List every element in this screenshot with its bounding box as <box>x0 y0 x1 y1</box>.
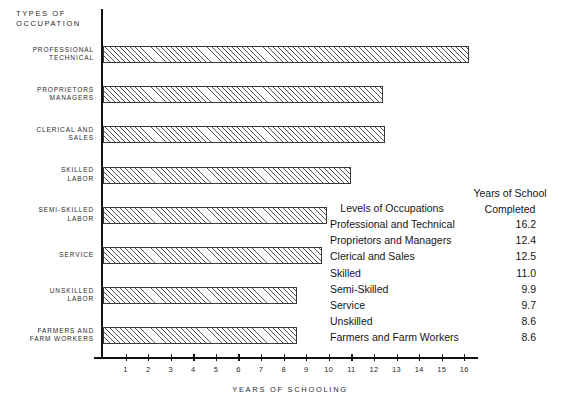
legend-row: Professional and Technical16.2 <box>330 218 568 234</box>
x-tick-label-8: 8 <box>274 365 294 374</box>
category-label-8: FARMERS AND FARM WORKERS <box>0 327 94 344</box>
bar-2 <box>103 86 383 103</box>
legend-table: Years of School Completed Levels of Occu… <box>330 186 568 348</box>
x-axis-line <box>94 357 478 359</box>
legend-years-3: 12.5 <box>500 250 536 262</box>
legend-row: Semi-Skilled9.9 <box>330 283 568 299</box>
x-axis-title: YEARS OF SCHOOLING <box>150 385 430 394</box>
x-tick-label-14: 14 <box>409 365 429 374</box>
x-tick-14 <box>419 354 420 361</box>
x-tick-label-1: 1 <box>116 365 136 374</box>
x-tick-11 <box>351 354 352 361</box>
x-tick-label-11: 11 <box>341 365 361 374</box>
x-tick-12 <box>374 354 375 361</box>
category-label-7: UNSKILLED LABOR <box>0 287 94 304</box>
x-tick-15 <box>442 354 443 361</box>
bar-4 <box>103 167 351 184</box>
legend-years-7: 8.6 <box>500 315 536 327</box>
x-tick-label-4: 4 <box>183 365 203 374</box>
x-tick-label-16: 16 <box>454 365 474 374</box>
category-label-3: CLERICAL AND SALES <box>0 126 94 143</box>
x-tick-3 <box>171 354 172 361</box>
bar-3 <box>103 126 385 143</box>
legend-row: Unskilled8.6 <box>330 315 568 331</box>
legend-level-8: Farmers and Farm Workers <box>330 331 459 343</box>
x-tick-label-2: 2 <box>138 365 158 374</box>
category-label-4: SKILLED LABOR <box>0 166 94 183</box>
legend-years-4: 11.0 <box>500 267 536 279</box>
legend-row-group: Professional and Technical16.2Proprietor… <box>330 218 568 348</box>
legend-table-header: Years of School Completed Levels of Occu… <box>330 186 568 218</box>
x-tick-8 <box>284 354 285 361</box>
legend-level-3: Clerical and Sales <box>330 250 415 262</box>
legend-years-6: 9.7 <box>500 299 536 311</box>
legend-years-2: 12.4 <box>500 234 536 246</box>
x-tick-6 <box>238 354 239 361</box>
x-tick-9 <box>306 354 307 361</box>
x-tick-label-10: 10 <box>319 365 339 374</box>
x-tick-label-6: 6 <box>228 365 248 374</box>
legend-row: Service9.7 <box>330 299 568 315</box>
x-tick-16 <box>464 354 465 361</box>
legend-header-years: Years of School Completed <box>458 186 562 217</box>
x-tick-label-15: 15 <box>432 365 452 374</box>
x-tick-5 <box>216 354 217 361</box>
legend-level-2: Proprietors and Managers <box>330 234 451 246</box>
x-tick-1 <box>126 354 127 361</box>
x-tick-label-12: 12 <box>364 365 384 374</box>
legend-row: Clerical and Sales12.5 <box>330 250 568 266</box>
legend-level-4: Skilled <box>330 267 361 279</box>
bar-6 <box>103 247 322 264</box>
x-tick-4 <box>193 354 194 361</box>
bar-8 <box>103 327 297 344</box>
bar-chart-figure: TYPES OF OCCUPATION PROFESSIONAL TECHNIC… <box>0 0 568 409</box>
bar-7 <box>103 287 297 304</box>
x-tick-10 <box>329 354 330 361</box>
x-tick-2 <box>148 354 149 361</box>
x-tick-label-9: 9 <box>296 365 316 374</box>
legend-years-5: 9.9 <box>500 283 536 295</box>
legend-level-7: Unskilled <box>330 315 373 327</box>
legend-level-5: Semi-Skilled <box>330 283 388 295</box>
legend-level-6: Service <box>330 299 365 311</box>
x-tick-label-7: 7 <box>251 365 271 374</box>
category-label-2: PROPRIETORS MANAGERS <box>0 86 94 103</box>
x-tick-label-3: 3 <box>161 365 181 374</box>
category-label-5: SEMI-SKILLED LABOR <box>0 206 94 223</box>
x-tick-label-5: 5 <box>206 365 226 374</box>
legend-years-1: 16.2 <box>500 218 536 230</box>
bar-1 <box>103 46 469 63</box>
y-axis-title: TYPES OF OCCUPATION <box>16 9 81 28</box>
legend-row: Skilled11.0 <box>330 267 568 283</box>
legend-years-8: 8.6 <box>500 331 536 343</box>
legend-level-1: Professional and Technical <box>330 218 455 230</box>
cropped-caption <box>0 402 568 409</box>
bar-5 <box>103 207 327 224</box>
legend-row: Farmers and Farm Workers8.6 <box>330 331 568 347</box>
x-tick-7 <box>261 354 262 361</box>
legend-header-levels: Levels of Occupations <box>330 202 454 214</box>
x-tick-label-13: 13 <box>387 365 407 374</box>
x-tick-13 <box>397 354 398 361</box>
legend-row: Proprietors and Managers12.4 <box>330 234 568 250</box>
category-label-6: SERVICE <box>0 251 94 260</box>
category-label-1: PROFESSIONAL TECHNICAL <box>0 46 94 63</box>
